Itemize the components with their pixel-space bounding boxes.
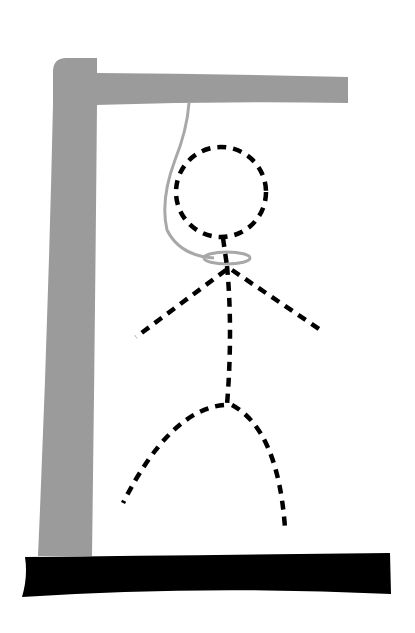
figure-left-leg	[123, 405, 224, 503]
gallows-beam	[95, 73, 348, 105]
figure-right-arm	[232, 270, 319, 329]
figure-right-leg	[232, 405, 285, 528]
gallows-post	[38, 58, 97, 556]
figure-left-arm	[136, 270, 226, 337]
figure-body	[227, 266, 230, 405]
hangman-drawing	[0, 0, 415, 633]
figure-head	[176, 147, 266, 237]
gallows-base	[22, 553, 391, 597]
